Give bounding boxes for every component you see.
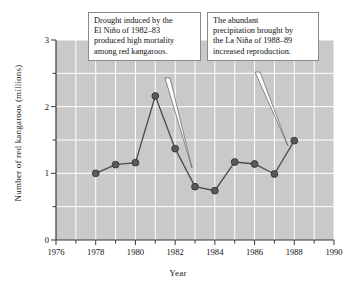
- y-tick-label-0: 0: [28, 235, 49, 245]
- kangaroo-population-chart: Drought induced by the El Niño of 1982–8…: [0, 0, 356, 289]
- x-tick-label-1990: 1990: [325, 247, 342, 257]
- y-tick-label-1: 1: [28, 168, 49, 178]
- x-tick-label-1980: 1980: [127, 247, 144, 257]
- drought-callout-line-3: produced high mortality: [94, 36, 196, 46]
- x-tick-label-1984: 1984: [206, 247, 223, 257]
- x-axis-title: Year: [0, 268, 356, 278]
- x-tick-label-1976: 1976: [47, 247, 64, 257]
- y-tick-label-2: 2: [28, 102, 49, 112]
- x-tick-label-1986: 1986: [246, 247, 263, 257]
- drought-callout-line-1: Drought induced by the: [94, 16, 196, 26]
- precipitation-callout-line-1: The abundant: [213, 16, 314, 26]
- precipitation-callout-line-4: increased reproduction.: [213, 47, 314, 57]
- y-tick-label-3: 3: [28, 35, 49, 45]
- precipitation-callout: The abundant precipitation brought by th…: [207, 12, 319, 61]
- x-tick-label-1988: 1988: [286, 247, 303, 257]
- x-tick-label-1982: 1982: [167, 247, 184, 257]
- precipitation-callout-line-2: precipitation brought by: [213, 26, 314, 36]
- drought-callout-line-2: El Niño of 1982–83: [94, 26, 196, 36]
- y-axis-title: Number of red kangaroos (millions): [13, 33, 23, 233]
- drought-callout: Drought induced by the El Niño of 1982–8…: [88, 12, 201, 61]
- precipitation-callout-line-3: the La Niña of 1988–89: [213, 36, 314, 46]
- drought-callout-line-4: among red kangaroos.: [94, 47, 196, 57]
- x-tick-label-1978: 1978: [87, 247, 104, 257]
